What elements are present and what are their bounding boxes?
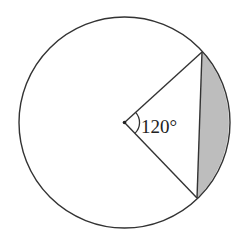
center-point bbox=[123, 121, 127, 125]
radius-upper bbox=[125, 52, 203, 123]
circle-segment-diagram: 120° bbox=[0, 0, 252, 232]
diagram-canvas: 120° bbox=[0, 0, 252, 232]
angle-arc-marker bbox=[135, 112, 140, 133]
angle-label: 120° bbox=[141, 116, 177, 137]
